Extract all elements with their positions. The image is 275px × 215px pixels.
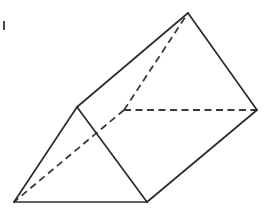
triangular-prism-drawing xyxy=(0,0,275,215)
figure-canvas xyxy=(0,0,275,215)
prism-faces xyxy=(14,13,257,202)
ink-speck xyxy=(3,21,5,30)
